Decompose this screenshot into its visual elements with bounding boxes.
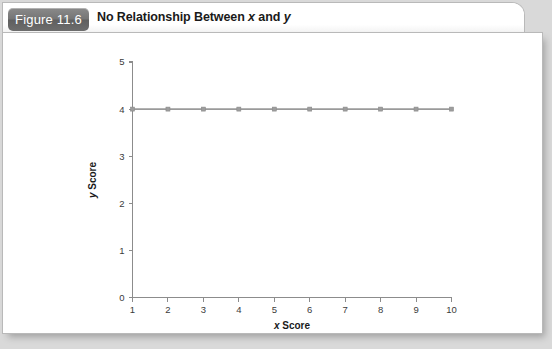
data-point-marker: [414, 107, 418, 111]
x-tick-label: 7: [343, 304, 348, 315]
y-tick-label: 0: [119, 292, 124, 303]
x-tick-label: 4: [236, 304, 241, 315]
x-tick-label: 5: [272, 304, 277, 315]
x-tick-label: 1: [130, 304, 135, 315]
figure-title: No Relationship Between x and y: [97, 10, 290, 24]
data-point-marker: [343, 107, 347, 111]
figure-title-prefix: No Relationship Between: [97, 10, 248, 24]
x-tick-label: 8: [378, 304, 383, 315]
figure-header-bar: Figure 11.6 No Relationship Between x an…: [2, 2, 525, 33]
y-ticks-group: 012345: [119, 56, 132, 303]
y-tick-label: 1: [119, 245, 124, 256]
figure-container: Figure 11.6 No Relationship Between x an…: [0, 0, 552, 349]
data-point-marker: [166, 107, 170, 111]
y-tick-label: 3: [119, 151, 124, 162]
figure-title-conjunction: and: [255, 10, 284, 24]
x-axis-title-rest: Score: [279, 320, 310, 331]
x-tick-label: 9: [413, 304, 418, 315]
y-tick-label: 5: [119, 56, 124, 67]
data-point-marker: [450, 107, 454, 111]
figure-title-variable-y: y: [284, 10, 291, 24]
y-axis-title: y Score: [87, 161, 98, 199]
series-group: [131, 107, 454, 111]
x-tick-label: 2: [165, 304, 170, 315]
y-tick-label: 2: [119, 198, 124, 209]
axes-group: [133, 62, 452, 298]
x-ticks-group: 12345678910: [130, 298, 457, 315]
x-tick-label: 10: [446, 304, 457, 315]
scatter-plot-area: 012345 12345678910 x Score y Score: [3, 33, 544, 335]
x-tick-label: 6: [307, 304, 312, 315]
data-point-marker: [131, 107, 135, 111]
data-point-marker: [237, 107, 241, 111]
figure-number-tab: Figure 11.6: [8, 8, 89, 31]
x-tick-label: 3: [201, 304, 206, 315]
figure-title-variable-x: x: [248, 10, 255, 24]
data-point-marker: [379, 107, 383, 111]
y-tick-label: 4: [119, 104, 124, 115]
data-point-marker: [272, 107, 276, 111]
plot-svg: 012345 12345678910 x Score y Score: [3, 33, 544, 335]
y-axis-title-rest: Score: [87, 161, 98, 192]
x-axis-title: x Score: [273, 320, 311, 331]
figure-panel: 012345 12345678910 x Score y Score: [2, 32, 543, 334]
figure-number-label: Figure 11.6: [15, 12, 82, 27]
data-point-marker: [308, 107, 312, 111]
data-point-marker: [201, 107, 205, 111]
